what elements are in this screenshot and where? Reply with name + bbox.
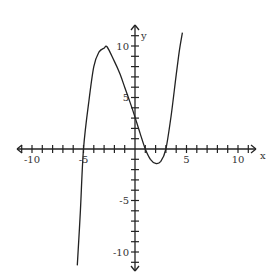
x-tick-label: 10: [232, 154, 245, 165]
chart: -10-5510105-5-10xy: [0, 0, 268, 280]
y-tick-label: 10: [116, 41, 129, 52]
y-axis-label: y: [140, 30, 147, 41]
tick-labels: -10-5510105-5-10xy: [24, 30, 266, 258]
y-tick-label: -5: [119, 195, 129, 206]
x-axis-label: x: [260, 150, 266, 161]
x-tick-label: 5: [183, 154, 189, 165]
x-tick-label: -10: [24, 154, 40, 165]
y-tick-label: -10: [113, 247, 129, 258]
